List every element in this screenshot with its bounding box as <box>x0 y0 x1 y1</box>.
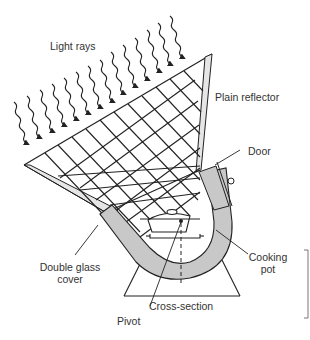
label-cooking-pot: Cooking pot <box>243 251 293 275</box>
label-light-rays: Light rays <box>50 40 96 52</box>
side-bracket <box>304 250 308 318</box>
label-pivot: Pivot <box>117 315 140 327</box>
label-plain-reflector: Plain reflector <box>215 91 279 103</box>
label-door: Door <box>248 145 271 157</box>
label-double-glass-line2: cover <box>30 273 110 285</box>
cooking-pot <box>140 210 204 239</box>
label-cooking-pot-line2: pot <box>243 263 293 275</box>
plain-reflector <box>196 54 212 172</box>
solar-cooker-diagram <box>0 0 310 340</box>
door-knob-icon <box>228 178 234 184</box>
label-cross-section: Cross-section <box>149 300 213 312</box>
incoming-light-rays <box>14 16 184 144</box>
label-cooking-pot-line1: Cooking <box>243 251 293 263</box>
label-double-glass-line1: Double glass <box>30 261 110 273</box>
label-double-glass-cover: Double glass cover <box>30 261 110 285</box>
